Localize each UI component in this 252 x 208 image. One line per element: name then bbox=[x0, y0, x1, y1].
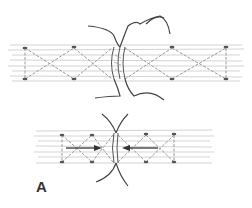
tendon-repair-diagram bbox=[0, 0, 252, 208]
lower-repair-site bbox=[113, 133, 119, 163]
panel-label: A bbox=[36, 178, 47, 195]
upper-cross-stitch bbox=[25, 48, 226, 79]
upper-repair-site bbox=[112, 47, 126, 79]
compression-arrow-right bbox=[122, 145, 158, 151]
upper-tendon bbox=[8, 45, 244, 81]
